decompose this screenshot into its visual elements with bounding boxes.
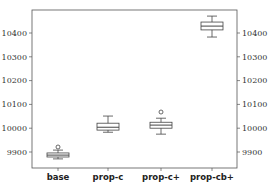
y-tick-label-left: 9900	[7, 148, 27, 157]
y-axis-left: 99001000010100102001030010400	[2, 29, 32, 157]
outlier-point	[159, 110, 163, 114]
y-tick-label-right: 10300	[242, 53, 267, 62]
y-tick-label-left: 10300	[2, 53, 27, 62]
x-axis: baseprop-cprop-c+prop-cb+	[47, 168, 234, 182]
box-prop-c+	[150, 110, 172, 134]
box-plot-chart: 99001000010100102001030010400 9900100001…	[0, 0, 272, 193]
x-tick-label: prop-cb+	[190, 172, 234, 182]
x-tick-label: prop-c+	[142, 172, 180, 182]
y-tick-label-right: 10000	[242, 124, 267, 133]
boxes	[47, 16, 223, 159]
box-prop-cb+	[201, 16, 223, 37]
y-tick-label-left: 10400	[2, 29, 27, 38]
y-tick-label-right: 10400	[242, 29, 267, 38]
x-tick-label: prop-c	[93, 172, 124, 182]
y-tick-label-left: 10000	[2, 124, 27, 133]
y-tick-label-left: 10200	[2, 76, 27, 85]
box-base	[47, 145, 69, 159]
plot-frame	[32, 10, 237, 168]
iqr-box	[97, 123, 119, 130]
x-tick-label: base	[47, 172, 70, 182]
box-prop-c	[97, 116, 119, 132]
y-axis-right: 99001000010100102001030010400	[237, 29, 267, 157]
y-tick-label-right: 9900	[242, 148, 262, 157]
y-tick-label-right: 10100	[242, 100, 267, 109]
outlier-point	[56, 145, 60, 149]
y-tick-label-right: 10200	[242, 76, 267, 85]
y-tick-label-left: 10100	[2, 100, 27, 109]
